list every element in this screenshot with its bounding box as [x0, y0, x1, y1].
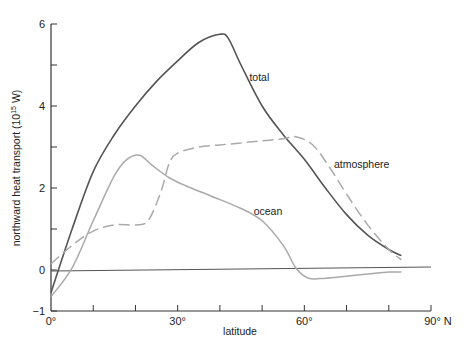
x-axis-label: latitude [223, 325, 257, 337]
y-tick-label: 2 [39, 182, 45, 194]
y-tick-label: 6 [39, 18, 45, 30]
zero-reference-line [51, 267, 431, 271]
label-atmosphere: atmosphere [334, 158, 390, 170]
y-tick-label: 0 [39, 264, 45, 276]
y-axis-label: northward heat transport (1015 W) [10, 90, 22, 247]
series-line-ocean [51, 155, 401, 297]
zero-line [51, 267, 431, 271]
x-tick-label: 90° N [424, 315, 452, 327]
heat-transport-chart: −102460°30°60°90° N totalatmosphereocean… [0, 0, 464, 349]
label-ocean: ocean [254, 205, 283, 217]
x-tick-label: 0° [46, 315, 57, 327]
label-total: total [249, 71, 269, 83]
y-tick-label: 4 [39, 100, 45, 112]
x-tick-label: 60° [296, 315, 313, 327]
series-labels: totalatmosphereocean [249, 71, 389, 216]
axes: −102460°30°60°90° N [32, 18, 451, 327]
x-tick-label: 30° [169, 315, 186, 327]
series-line-atmosphere [51, 136, 401, 263]
y-tick-label: −1 [32, 305, 45, 317]
